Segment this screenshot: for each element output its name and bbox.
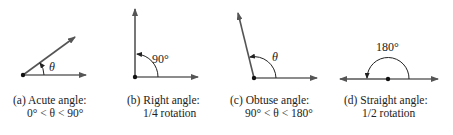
angle-label: θ <box>272 50 278 64</box>
caption-acute: (a) Acute angle: 0° < θ < 90° <box>13 94 86 120</box>
angle-arc <box>40 63 44 75</box>
terminal-ray <box>238 13 254 78</box>
vertex-dot <box>252 76 256 80</box>
straight-angle-figure: 180° <box>340 40 438 81</box>
caption-title: (d) Straight angle: <box>344 94 428 106</box>
angle-label: 90° <box>152 52 169 66</box>
vertex-dot <box>21 73 25 77</box>
caption-obtuse: (c) Obtuse angle: 90° < θ < 180° <box>230 94 313 120</box>
caption-detail: 1/4 rotation <box>127 107 200 120</box>
angle-arc <box>367 57 409 79</box>
caption-title: (a) Acute angle: <box>13 94 86 106</box>
caption-title: (c) Obtuse angle: <box>230 94 309 106</box>
caption-right: (b) Right angle: 1/4 rotation <box>127 94 200 120</box>
caption-title: (b) Right angle: <box>127 94 200 106</box>
acute-angle-figure: θ <box>21 37 86 77</box>
caption-detail: 0° < θ < 90° <box>13 107 86 120</box>
angle-label: 180° <box>376 40 399 54</box>
caption-detail: 1/2 rotation <box>344 107 428 120</box>
angle-label: θ <box>49 60 55 74</box>
vertex-dot <box>133 75 137 79</box>
obtuse-angle-figure: θ <box>238 13 317 80</box>
right-angle-figure: 90° <box>133 9 198 79</box>
caption-detail: 90° < θ < 180° <box>230 107 313 120</box>
caption-straight: (d) Straight angle: 1/2 rotation <box>344 94 428 120</box>
vertex-dot <box>386 77 390 81</box>
